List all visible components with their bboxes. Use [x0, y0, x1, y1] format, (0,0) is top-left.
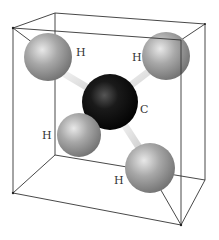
label-h1: H — [76, 46, 86, 59]
atoms — [24, 32, 190, 193]
methane-diagram: H H H H C — [0, 0, 219, 240]
label-c: C — [140, 103, 148, 116]
label-h3: H — [42, 129, 52, 142]
cube-molecule-figure: H H H H C — [0, 0, 219, 240]
label-h2: H — [132, 51, 142, 64]
hydrogen-atom-3 — [57, 113, 101, 157]
hydrogen-atom-4 — [125, 143, 175, 193]
hydrogen-atom-1 — [24, 33, 72, 81]
label-h4: H — [114, 174, 124, 187]
